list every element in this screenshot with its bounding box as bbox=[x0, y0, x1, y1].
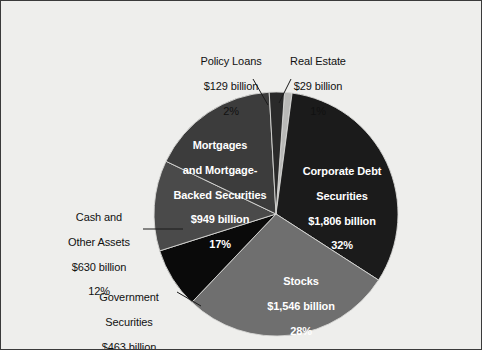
slice-label-stocks: Stocks $1,546 billion 28% bbox=[245, 263, 357, 349]
cash-other-assets-name-1: Cash and bbox=[53, 211, 145, 223]
cash-other-assets-amount: $630 billion bbox=[53, 261, 145, 273]
slice-label-government-securities: Government Securities $463 billion 8% bbox=[83, 279, 175, 350]
mortgages-name-2: and Mortgage- bbox=[153, 164, 287, 176]
policy-loans-amount: $129 billion bbox=[179, 80, 283, 92]
corporate-debt-name-1: Corporate Debt bbox=[284, 165, 400, 177]
mortgages-name-1: Mortgages bbox=[153, 139, 287, 151]
government-securities-amount: $463 billion bbox=[83, 341, 175, 350]
corporate-debt-percent: 32% bbox=[284, 239, 400, 251]
policy-loans-percent: 2% bbox=[179, 105, 283, 117]
slice-label-mortgages: Mortgages and Mortgage- Backed Securitie… bbox=[153, 127, 287, 262]
stocks-amount: $1,546 billion bbox=[245, 300, 357, 312]
stocks-name: Stocks bbox=[245, 275, 357, 287]
corporate-debt-name-2: Securities bbox=[284, 190, 400, 202]
pie-chart-figure: Policy Loans $129 billion 2% Real Estate… bbox=[0, 0, 482, 350]
real-estate-amount: $29 billion bbox=[273, 80, 363, 92]
slice-label-corporate-debt: Corporate Debt Securities $1,806 billion… bbox=[284, 153, 400, 264]
mortgages-percent: 17% bbox=[153, 238, 287, 250]
policy-loans-name: Policy Loans bbox=[179, 55, 283, 67]
corporate-debt-amount: $1,806 billion bbox=[284, 215, 400, 227]
government-securities-name-2: Securities bbox=[83, 316, 175, 328]
government-securities-name-1: Government bbox=[83, 291, 175, 303]
real-estate-percent: 1% bbox=[273, 105, 363, 117]
mortgages-amount: $949 billion bbox=[153, 213, 287, 225]
mortgages-name-3: Backed Securities bbox=[153, 189, 287, 201]
real-estate-name: Real Estate bbox=[273, 55, 363, 67]
cash-other-assets-name-2: Other Assets bbox=[53, 236, 145, 248]
slice-label-policy-loans: Policy Loans $129 billion 2% bbox=[179, 43, 283, 129]
stocks-percent: 28% bbox=[245, 325, 357, 337]
slice-label-real-estate: Real Estate $29 billion 1% bbox=[273, 43, 363, 129]
